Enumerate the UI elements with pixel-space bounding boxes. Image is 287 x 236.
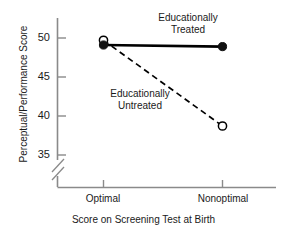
axis-break-slash-upper — [52, 159, 64, 172]
y-tick-label-45: 45 — [28, 71, 50, 82]
annotation-untreated-line1: Educationally — [88, 88, 192, 100]
annotation-treated-line2: Treated — [136, 24, 240, 36]
y-tick-label-50: 50 — [28, 32, 50, 43]
series-untreated-line — [104, 40, 223, 126]
annotation-treated: Educationally Treated — [136, 12, 240, 36]
series-untreated-marker-nonoptimal — [218, 122, 226, 130]
series-treated-marker-optimal — [99, 41, 107, 49]
annotation-untreated: Educationally Untreated — [88, 88, 192, 112]
y-axis-title: Perceptual/Performance Score — [18, 14, 30, 174]
x-tick-label-nonoptimal: Nonoptimal — [180, 193, 266, 204]
annotation-treated-line1: Educationally — [136, 12, 240, 24]
y-tick-label-35: 35 — [28, 149, 50, 160]
chart-figure: 50 45 40 35 Optimal Nonoptimal Score on … — [0, 0, 287, 236]
x-tick-label-optimal: Optimal — [63, 193, 143, 204]
y-tick-label-40: 40 — [28, 110, 50, 121]
x-axis-title: Score on Screening Test at Birth — [0, 214, 287, 226]
series-treated-marker-nonoptimal — [218, 43, 226, 51]
series-treated-line — [104, 45, 223, 47]
annotation-untreated-line2: Untreated — [88, 100, 192, 112]
